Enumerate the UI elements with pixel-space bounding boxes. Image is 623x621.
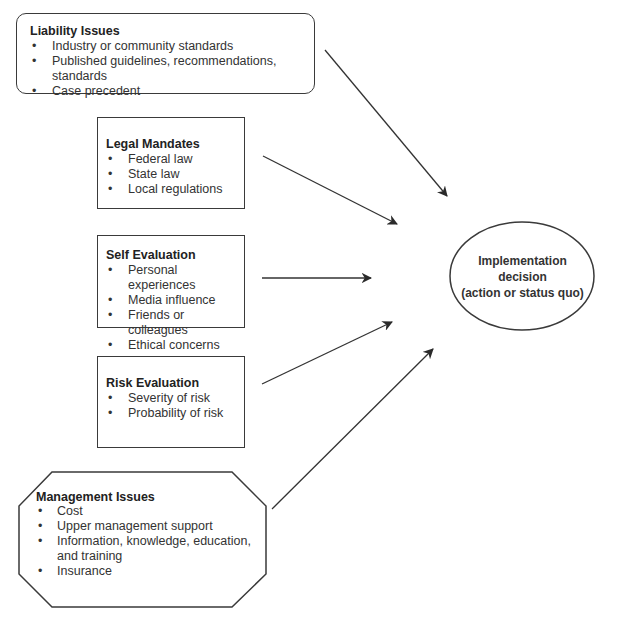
- factor-item: Ethical concerns: [106, 338, 244, 353]
- factor-item: Published guidelines, recommendations, s…: [30, 54, 314, 84]
- factor-item: Severity of risk: [106, 391, 244, 406]
- decision-label: Implementation decision (action or statu…: [460, 253, 585, 301]
- factor-title: Liability Issues: [30, 24, 314, 38]
- arrow-management: [272, 349, 433, 509]
- decision-line: (action or status quo): [460, 285, 585, 301]
- factor-item: Friends or colleagues: [106, 308, 244, 338]
- arrow-risk: [262, 322, 392, 384]
- factor-title: Legal Mandates: [106, 137, 244, 151]
- factor-legal-mandates: Legal Mandates Federal law State law Loc…: [97, 117, 245, 209]
- factor-title: Self Evaluation: [106, 248, 244, 262]
- factor-item: Case precedent: [30, 84, 314, 99]
- factor-item: Upper management support: [36, 519, 256, 534]
- arrow-liability: [325, 50, 447, 196]
- factor-item: State law: [106, 167, 244, 182]
- factor-liability-issues: Liability Issues Industry or community s…: [16, 13, 315, 94]
- decision-line: Implementation: [460, 253, 585, 269]
- factor-item: Local regulations: [106, 182, 244, 197]
- factor-item: Industry or community standards: [30, 39, 314, 54]
- arrow-legal: [263, 156, 397, 224]
- factor-risk-evaluation: Risk Evaluation Severity of risk Probabi…: [97, 356, 245, 448]
- factor-item: Personal experiences: [106, 263, 244, 293]
- factor-item: Cost: [36, 504, 256, 519]
- factor-item: Insurance: [36, 564, 256, 579]
- factor-item: Probability of risk: [106, 406, 244, 421]
- factor-self-evaluation: Self Evaluation Personal experiences Med…: [97, 235, 245, 328]
- factor-title: Risk Evaluation: [106, 376, 244, 390]
- factor-title: Management Issues: [36, 490, 256, 504]
- decision-line: decision: [460, 269, 585, 285]
- factor-item: Media influence: [106, 293, 244, 308]
- factor-item: Information, knowledge, education, and t…: [36, 534, 256, 564]
- factor-management-issues: Management Issues Cost Upper management …: [36, 490, 256, 579]
- factor-item: Federal law: [106, 152, 244, 167]
